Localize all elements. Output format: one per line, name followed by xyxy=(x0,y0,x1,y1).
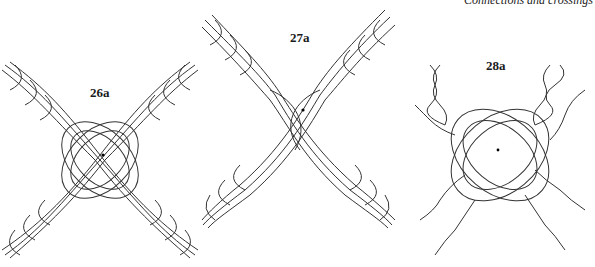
center-dot xyxy=(101,153,104,156)
running-head: Connections and crossings xyxy=(464,0,593,8)
figure-28a-illustration xyxy=(410,60,595,260)
center-dot xyxy=(497,149,500,152)
figure-26a-illustration xyxy=(0,60,200,260)
figure-27a-illustration xyxy=(200,5,395,230)
center-dot xyxy=(301,108,304,111)
